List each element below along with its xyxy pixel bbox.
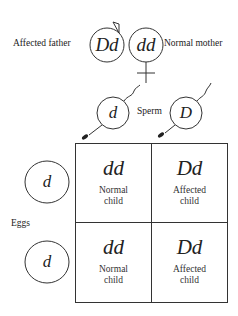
punnett-cell-bottom-left: dd Normalchild	[76, 223, 151, 302]
cell-genotype: Dd	[177, 237, 203, 258]
cell-phenotype: Affectedchild	[173, 185, 206, 207]
sperm-allele-1: d	[103, 104, 123, 121]
egg-allele-1: d	[37, 173, 57, 190]
sperm-label: Sperm	[137, 106, 162, 116]
cell-phenotype: Affectedchild	[173, 264, 206, 286]
egg-allele-2: d	[37, 253, 57, 270]
cell-genotype: dd	[103, 158, 124, 179]
sperm-head-icon	[157, 132, 165, 139]
father-genotype: Dd	[90, 35, 124, 54]
sperm-head-icon	[81, 134, 89, 141]
cell-genotype: dd	[103, 237, 124, 258]
cell-phenotype: Normalchild	[99, 264, 128, 286]
punnett-cell-top-right: Dd Affectedchild	[152, 144, 227, 222]
cell-genotype: Dd	[177, 158, 203, 179]
cell-phenotype: Normalchild	[99, 185, 128, 207]
punnett-cell-top-left: dd Normalchild	[76, 144, 151, 222]
sperm-allele-2: D	[176, 104, 196, 121]
punnett-cell-bottom-right: Dd Affectedchild	[152, 223, 227, 302]
father-label: Affected father	[13, 38, 71, 48]
mother-genotype: dd	[129, 35, 163, 54]
eggs-label: Eggs	[11, 218, 30, 228]
mother-label: Normal mother	[164, 38, 222, 48]
